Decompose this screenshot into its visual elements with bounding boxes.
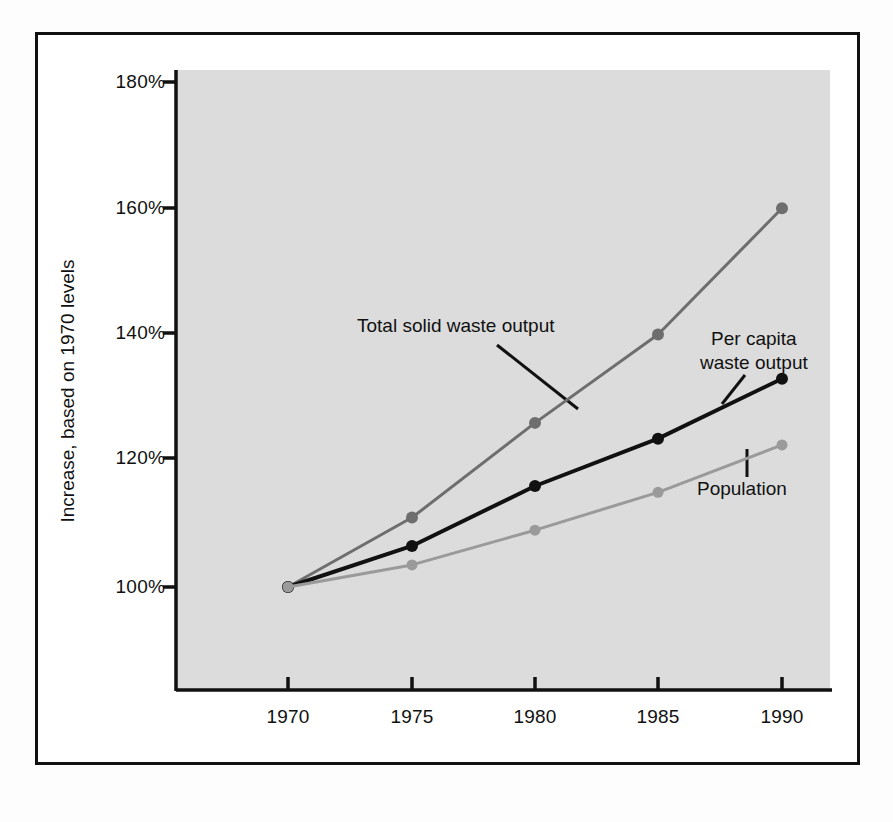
data-point-1-2 bbox=[529, 480, 541, 492]
data-point-2-4 bbox=[777, 439, 788, 450]
x-axis-ticks bbox=[288, 677, 782, 690]
data-point-1-4 bbox=[776, 373, 788, 385]
data-point-2-2 bbox=[530, 525, 541, 536]
data-point-0-1 bbox=[406, 512, 418, 524]
data-point-0-2 bbox=[529, 417, 541, 429]
y-axis-ticks bbox=[163, 82, 176, 587]
data-point-1-3 bbox=[652, 433, 664, 445]
annotation-leader-lines bbox=[497, 345, 747, 477]
chart-canvas bbox=[0, 0, 893, 822]
data-point-2-1 bbox=[407, 559, 418, 570]
series-layer bbox=[282, 202, 788, 593]
data-point-0-4 bbox=[776, 202, 788, 214]
data-point-2-0 bbox=[283, 582, 294, 593]
data-point-2-3 bbox=[653, 487, 664, 498]
data-point-1-1 bbox=[406, 540, 418, 552]
data-point-0-3 bbox=[652, 329, 664, 341]
axis-lines bbox=[176, 70, 832, 691]
figure-root: 180% 160% 140% 120% 100% 1970 1975 1980 … bbox=[0, 0, 893, 822]
series-line-2 bbox=[288, 445, 782, 587]
